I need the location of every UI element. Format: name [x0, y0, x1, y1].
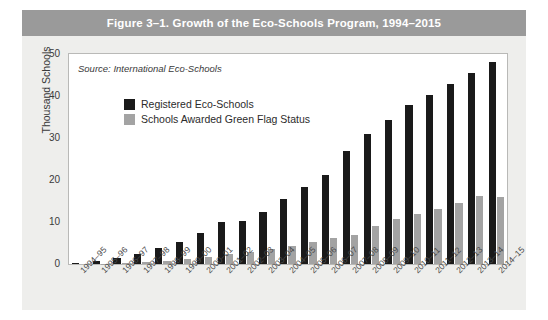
bar-group[interactable]	[465, 54, 486, 264]
bar-registered[interactable]	[426, 95, 433, 264]
figure-title: Figure 3–1. Growth of the Eco-Schools Pr…	[107, 17, 441, 29]
bar-group[interactable]	[152, 54, 173, 264]
bar-group[interactable]	[444, 54, 465, 264]
bar-group[interactable]	[403, 54, 424, 264]
figure-title-band: Figure 3–1. Growth of the Eco-Schools Pr…	[22, 10, 526, 36]
bar-registered[interactable]	[489, 62, 496, 264]
bar-group[interactable]	[278, 54, 299, 264]
bar-group[interactable]	[298, 54, 319, 264]
y-tick-label: 10	[38, 216, 60, 227]
bar-registered[interactable]	[72, 263, 79, 264]
bar-registered[interactable]	[405, 105, 412, 264]
y-tick-label: 40	[38, 90, 60, 101]
y-tick-label: 30	[38, 132, 60, 143]
y-tick-label: 0	[38, 258, 60, 269]
bar-group[interactable]	[424, 54, 445, 264]
bar-group[interactable]	[257, 54, 278, 264]
bar-group[interactable]	[382, 54, 403, 264]
bar-group[interactable]	[215, 54, 236, 264]
figure-container: Figure 3–1. Growth of the Eco-Schools Pr…	[22, 10, 526, 310]
bar-registered[interactable]	[364, 134, 371, 264]
bar-group[interactable]	[173, 54, 194, 264]
bar-group[interactable]	[69, 54, 90, 264]
bar-group[interactable]	[340, 54, 361, 264]
bar-group[interactable]	[111, 54, 132, 264]
bar-group[interactable]	[361, 54, 382, 264]
bars-layer	[69, 54, 507, 264]
bar-group[interactable]	[319, 54, 340, 264]
bar-group[interactable]	[194, 54, 215, 264]
bar-group[interactable]	[90, 54, 111, 264]
bar-registered[interactable]	[447, 84, 454, 264]
bar-registered[interactable]	[468, 73, 475, 264]
y-tick-label: 20	[38, 174, 60, 185]
bar-registered[interactable]	[385, 120, 392, 264]
bar-group[interactable]	[236, 54, 257, 264]
bar-group[interactable]	[132, 54, 153, 264]
bar-group[interactable]	[486, 54, 507, 264]
y-tick-label: 50	[38, 48, 60, 59]
